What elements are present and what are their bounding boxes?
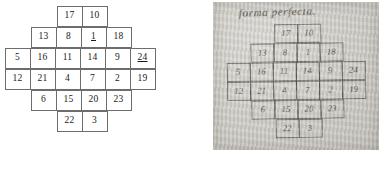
grid-row: 6152023 bbox=[5, 90, 159, 111]
grid-cell: 14 bbox=[80, 48, 106, 69]
grid-row: 5161114924 bbox=[5, 48, 159, 69]
manuscript-grid-cell: 18 bbox=[319, 42, 343, 61]
manuscript-grid-cell: 9 bbox=[318, 61, 342, 80]
grid-cell-empty bbox=[131, 90, 157, 111]
manuscript-grid-cell: 15 bbox=[274, 100, 298, 119]
cell-value: 6 bbox=[41, 95, 46, 105]
cell-value: 23 bbox=[114, 95, 124, 105]
cell-value: 16 bbox=[38, 53, 48, 63]
cell-value: 5 bbox=[15, 53, 20, 63]
cell-value: 13 bbox=[39, 32, 49, 42]
grid-cell: 17 bbox=[57, 6, 83, 27]
grid-row: 138118 bbox=[5, 27, 159, 48]
grid-cell: 7 bbox=[80, 69, 106, 90]
manuscript-grid-cell-empty bbox=[342, 42, 366, 61]
manuscript-grid-cell: 12 bbox=[227, 81, 251, 100]
manuscript-grid-cell: 3 bbox=[298, 118, 322, 137]
manuscript-grid-cell-empty bbox=[228, 120, 252, 139]
grid-cell: 24 bbox=[130, 48, 156, 69]
grid-cell-empty bbox=[5, 6, 31, 27]
manuscript-magic-square-grid: 171013811851611149241221472196152023223 bbox=[226, 23, 370, 139]
cell-value: 17 bbox=[281, 28, 290, 38]
manuscript-grid-cell: 6 bbox=[251, 100, 275, 119]
manuscript-grid-row: 223 bbox=[228, 118, 370, 139]
manuscript-grid-row: 1710 bbox=[226, 23, 368, 44]
cell-value: 24 bbox=[138, 53, 148, 63]
typeset-magic-square-figure: 171013811851611149241221472196152023223 bbox=[0, 0, 193, 172]
grid-cell: 4 bbox=[55, 69, 81, 90]
cell-value: 13 bbox=[257, 47, 266, 57]
cell-value: 4 bbox=[65, 74, 70, 84]
grid-cell-empty bbox=[31, 6, 57, 27]
cell-value: 6 bbox=[261, 104, 266, 114]
cell-value: 8 bbox=[66, 32, 71, 42]
grid-cell-empty bbox=[5, 111, 31, 132]
grid-cell: 20 bbox=[81, 90, 107, 111]
cell-value: 7 bbox=[90, 74, 95, 84]
manuscript-grid-cell: 19 bbox=[341, 79, 365, 98]
manuscript-grid-cell-empty bbox=[252, 119, 276, 138]
manuscript-grid-cell: 4 bbox=[272, 81, 296, 100]
manuscript-grid-cell: 16 bbox=[249, 62, 273, 81]
grid-cell: 11 bbox=[55, 48, 81, 69]
manuscript-grid-row: 6152023 bbox=[227, 99, 369, 120]
grid-cell: 21 bbox=[30, 69, 56, 90]
cell-value: 1 bbox=[91, 32, 96, 42]
cell-value: 20 bbox=[304, 104, 313, 114]
cell-value: 7 bbox=[305, 85, 310, 95]
manuscript-grid-cell: 17 bbox=[274, 23, 298, 42]
grid-cell: 3 bbox=[82, 111, 108, 132]
grid-cell-empty bbox=[131, 27, 157, 48]
cell-value: 16 bbox=[257, 66, 266, 76]
manuscript-grid-cell: 10 bbox=[297, 23, 321, 42]
grid-cell: 22 bbox=[57, 111, 83, 132]
cell-value: 15 bbox=[64, 95, 74, 105]
manuscript-grid-cell: 23 bbox=[320, 99, 344, 118]
cell-value: 4 bbox=[282, 85, 287, 95]
manuscript-grid-cell-empty bbox=[226, 44, 250, 63]
grid-cell: 2 bbox=[105, 69, 131, 90]
manuscript-grid-cell-empty bbox=[227, 101, 251, 120]
manuscript-title-caption: forma perfecta. bbox=[239, 3, 359, 23]
grid-row: 1710 bbox=[5, 6, 159, 27]
grid-cell-empty bbox=[5, 90, 31, 111]
cell-value: 14 bbox=[303, 66, 312, 76]
grid-cell: 18 bbox=[106, 27, 132, 48]
manuscript-grid-cell-empty bbox=[344, 23, 368, 42]
manuscript-grid-cell-empty bbox=[226, 25, 250, 44]
manuscript-grid-cell: 13 bbox=[250, 43, 274, 62]
cell-value: 9 bbox=[115, 53, 120, 63]
manuscript-grid-cell: 2 bbox=[318, 80, 342, 99]
cell-value: 20 bbox=[89, 95, 99, 105]
manuscript-grid-cell-empty bbox=[346, 118, 370, 137]
cell-value: 12 bbox=[234, 86, 243, 96]
manuscript-grid-cell: 5 bbox=[226, 62, 250, 81]
manuscript-grid-cell: 1 bbox=[296, 42, 320, 61]
grid-cell-empty bbox=[5, 27, 31, 48]
cell-value: 21 bbox=[257, 85, 266, 95]
cell-value: 18 bbox=[326, 46, 335, 56]
magic-square-grid: 171013811851611149241221472196152023223 bbox=[5, 6, 159, 132]
cell-value: 2 bbox=[115, 74, 120, 84]
cell-value: 22 bbox=[283, 123, 292, 133]
grid-cell-empty bbox=[31, 111, 57, 132]
grid-cell: 19 bbox=[130, 69, 156, 90]
manuscript-grid-cell: 7 bbox=[295, 80, 319, 99]
grid-cell: 5 bbox=[5, 48, 31, 69]
cell-value: 19 bbox=[349, 84, 358, 94]
manuscript-grid-cell-empty bbox=[250, 24, 274, 43]
manuscript-grid-cell-empty bbox=[343, 99, 367, 118]
cell-value: 23 bbox=[327, 103, 336, 113]
grid-cell: 23 bbox=[106, 90, 132, 111]
grid-cell: 15 bbox=[56, 90, 82, 111]
manuscript-grid-row: 122147219 bbox=[227, 80, 369, 101]
manuscript-grid-cell: 14 bbox=[295, 61, 319, 80]
manuscript-grid-cell: 11 bbox=[272, 62, 296, 81]
cell-value: 9 bbox=[328, 65, 333, 75]
cell-value: 10 bbox=[304, 28, 313, 38]
cell-value: 12 bbox=[13, 74, 23, 84]
grid-row: 223 bbox=[5, 111, 159, 132]
manuscript-grid-cell: 20 bbox=[297, 99, 321, 118]
grid-cell: 13 bbox=[31, 27, 57, 48]
cell-value: 19 bbox=[138, 74, 148, 84]
